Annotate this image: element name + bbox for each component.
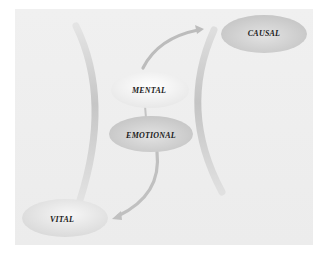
arrowhead-causal-icon	[195, 25, 204, 34]
arrowhead-vital-icon	[112, 211, 122, 220]
arrow-mental-to-causal	[143, 30, 198, 68]
node-causal-label: CAUSAL	[248, 29, 280, 38]
node-vital-label: VITAL	[50, 215, 74, 224]
node-emotional-label: EMOTIONAL	[126, 131, 176, 140]
arrow-emotional-to-vital	[118, 152, 158, 216]
left-boundary-arc	[76, 26, 95, 200]
node-mental-label: MENTAL	[132, 86, 166, 95]
diagram-graphics	[0, 0, 324, 254]
right-boundary-arc	[198, 30, 222, 192]
